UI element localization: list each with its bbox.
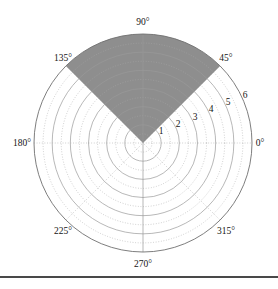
radial-label-2: 2	[176, 119, 181, 129]
polar-chart-figure: 0° 45° 90° 135° 180° 225° 270° 315° 1 2 …	[0, 0, 278, 289]
radial-label-6: 6	[243, 90, 248, 100]
angle-label-0: 0°	[256, 138, 265, 148]
angle-label-90: 90°	[136, 17, 150, 27]
radial-label-5: 5	[226, 97, 231, 107]
angle-label-315: 315°	[217, 226, 235, 236]
angle-label-135: 135°	[54, 53, 72, 63]
angle-label-225: 225°	[54, 226, 72, 236]
radial-label-4: 4	[209, 104, 214, 114]
angle-label-45: 45°	[219, 53, 233, 63]
angle-label-180: 180°	[13, 138, 31, 148]
polar-plot-canvas: 0° 45° 90° 135° 180° 225° 270° 315° 1 2 …	[0, 0, 278, 289]
radial-label-1: 1	[159, 126, 164, 136]
radial-label-3: 3	[193, 112, 198, 122]
angle-label-270: 270°	[134, 259, 152, 269]
